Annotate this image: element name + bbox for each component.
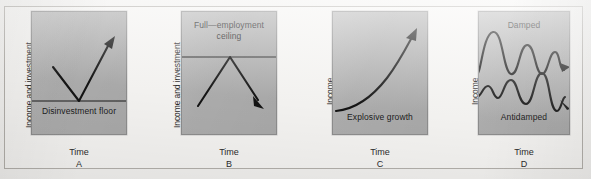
damped-label: Damped — [479, 20, 569, 31]
panel-b-letter: B — [181, 158, 277, 170]
damped-arrowhead — [560, 63, 570, 72]
panel-a: Income and investment Disinvestment floo… — [0, 0, 145, 179]
panel-a-plot-area: Disinvestment floor — [31, 11, 127, 135]
panel-b-arrowhead — [253, 96, 264, 109]
panel-b-path — [198, 57, 258, 106]
disinvestment-floor-label: Disinvestment floor — [32, 106, 126, 117]
full-employment-ceiling-label: Full—employment ceiling — [182, 20, 276, 42]
explosive-growth-label: Explosive growth — [333, 112, 427, 123]
figure-container: Income and investment Disinvestment floo… — [0, 0, 591, 179]
explosive-growth-curve — [336, 39, 411, 111]
panel-c-letter: C — [332, 158, 428, 170]
panel-d-letter: D — [478, 158, 570, 170]
panel-d-plot-area: Damped Antidamped — [478, 11, 570, 135]
antidamped-label: Antidamped — [479, 112, 569, 123]
panel-d-x-axis-label: Time D — [478, 146, 570, 170]
antidamped-curve — [478, 73, 565, 111]
panel-a-arrowhead — [104, 36, 115, 49]
panel-c-plot-area: Explosive growth — [332, 11, 428, 135]
panel-a-x-axis-label: Time A — [31, 146, 127, 170]
ceiling-label-line1: Full—employment — [194, 20, 264, 30]
ceiling-label-line2: ceiling — [217, 31, 242, 41]
panel-b-x-axis-text: Time — [219, 147, 239, 157]
panel-c-x-axis-label: Time C — [332, 146, 428, 170]
panel-b: Income and investment Full—employment ce… — [145, 0, 300, 179]
panel-d: Income Damped Antidamped Time D — [448, 0, 591, 179]
panel-a-path — [53, 44, 109, 101]
panel-d-x-axis-text: Time — [514, 147, 534, 157]
panel-c: Income Explosive growth Time C — [300, 0, 448, 179]
panel-a-x-axis-text: Time — [69, 147, 89, 157]
panel-a-letter: A — [31, 158, 127, 170]
damped-curve — [478, 32, 564, 74]
panel-b-x-axis-label: Time B — [181, 146, 277, 170]
panel-b-plot-area: Full—employment ceiling — [181, 11, 277, 135]
panel-c-x-axis-text: Time — [370, 147, 390, 157]
panel-c-arrowhead — [406, 28, 417, 41]
